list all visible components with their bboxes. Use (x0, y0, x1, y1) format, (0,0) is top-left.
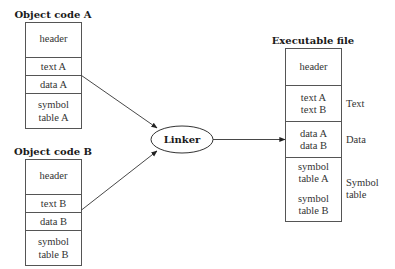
linker-node: Linker (151, 126, 213, 153)
object-a-header: header (40, 33, 68, 44)
object-b-data: data B (40, 216, 67, 227)
object-b-text: text B (41, 198, 66, 209)
object-code-b: Object code B header text B data B symbo… (14, 146, 92, 266)
object-a-data: data A (40, 79, 68, 90)
exec-symbol-b-line2: table B (298, 205, 328, 216)
arrow-object-a-to-linker (82, 76, 158, 129)
exec-symbol-a-line1: symbol (298, 161, 329, 172)
exec-symbol-b-line1: symbol (298, 193, 329, 204)
object-code-b-title: Object code B (14, 146, 92, 157)
object-code-a-title: Object code A (14, 9, 91, 20)
linker-label: Linker (164, 134, 201, 145)
object-b-symbol-line2: table B (38, 249, 68, 260)
exec-text-a: text A (301, 92, 327, 103)
executable-file-title: Executable file (272, 35, 354, 46)
exec-symbol-a-line2: table A (298, 173, 328, 184)
arrow-object-b-to-linker (82, 151, 158, 210)
object-b-header: header (40, 170, 68, 181)
exec-data-a: data A (300, 128, 328, 139)
executable-file: Executable file header text A text B dat… (272, 35, 379, 222)
exec-data-b: data B (300, 140, 327, 151)
object-a-symbol-line1: symbol (38, 99, 69, 110)
object-code-a: Object code A header text A data A symbo… (14, 9, 91, 129)
object-a-symbol-line2: table A (38, 112, 68, 123)
linker-diagram: Object code A header text A data A symbo… (0, 0, 395, 269)
exec-text-b: text B (301, 104, 326, 115)
object-b-symbol-line1: symbol (38, 236, 69, 247)
exec-header: header (300, 61, 328, 72)
side-label-symbol-line2: table (346, 189, 367, 200)
side-label-text: Text (346, 98, 365, 109)
object-a-text: text A (41, 61, 67, 72)
side-label-symbol-line1: Symbol (346, 177, 379, 188)
side-label-data: Data (346, 134, 366, 145)
